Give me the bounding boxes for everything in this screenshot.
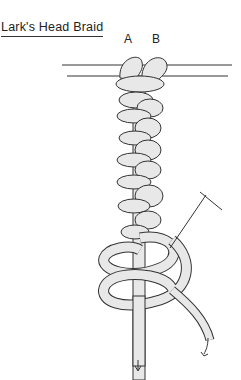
lower-loops xyxy=(103,237,210,340)
top-loops xyxy=(116,57,167,92)
core-cord-end xyxy=(133,296,145,366)
braid-loops xyxy=(117,92,163,239)
braid-illustration xyxy=(0,0,241,380)
